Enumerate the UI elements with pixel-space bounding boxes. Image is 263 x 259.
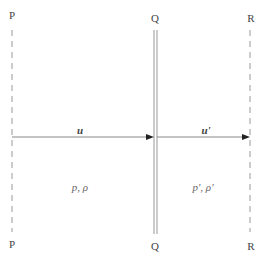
- plane-q-shock-front: [154, 30, 157, 234]
- plane-p-label-top: P: [9, 10, 15, 21]
- plane-q-label-bottom: Q: [151, 241, 159, 252]
- plane-r-label-top: R: [247, 13, 254, 24]
- velocity-u-prime-label: u': [201, 125, 210, 136]
- region-upstream-state-label: p, ρ: [72, 182, 88, 193]
- velocity-u-label: u: [77, 125, 83, 136]
- diagram-canvas: [0, 0, 263, 259]
- plane-p-label-bottom: P: [9, 239, 15, 250]
- plane-q-label-top: Q: [151, 13, 159, 24]
- region-downstream-state-label: p', ρ': [193, 182, 214, 193]
- plane-r-label-bottom: R: [247, 241, 254, 252]
